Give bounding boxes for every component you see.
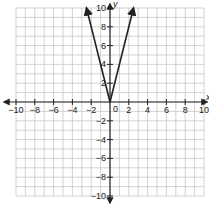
- x-tick-label: 8: [183, 105, 188, 115]
- y-tick-label: 8: [101, 22, 106, 32]
- x-tick-label: −10: [8, 105, 23, 115]
- x-tick-label: −8: [30, 105, 40, 115]
- origin-label: 0: [113, 104, 118, 114]
- y-tick-label: 6: [101, 41, 106, 51]
- y-tick-label: −4: [96, 135, 106, 145]
- x-tick-label: 6: [164, 105, 169, 115]
- y-tick-label: −8: [96, 172, 106, 182]
- x-tick-label: −6: [48, 105, 58, 115]
- y-tick-label: 10: [96, 3, 106, 13]
- coordinate-plane: −10−8−6−4−2246810−10−8−6−4−22468100yx: [0, 0, 209, 212]
- y-axis-label: y: [112, 0, 118, 9]
- y-tick-label: −10: [91, 191, 106, 201]
- x-tick-label: 2: [126, 105, 131, 115]
- x-tick-label: −4: [67, 105, 77, 115]
- x-axis-label: x: [205, 92, 209, 102]
- y-tick-label: −2: [96, 116, 106, 126]
- x-tick-label: 4: [145, 105, 150, 115]
- x-tick-label: 10: [199, 105, 209, 115]
- x-tick-label: −2: [86, 105, 96, 115]
- y-tick-label: −6: [96, 153, 106, 163]
